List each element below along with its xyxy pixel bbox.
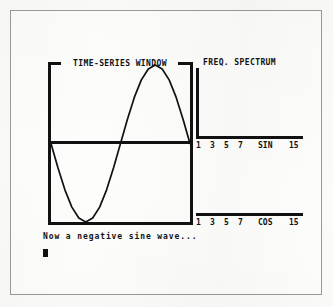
tick-label: 3 bbox=[210, 140, 215, 151]
time-series-border-bottom bbox=[48, 222, 193, 225]
tick-label: 15 bbox=[289, 140, 299, 151]
sin-spectrum-tick-labels: 1357SIN15 bbox=[196, 140, 303, 151]
negative-sine-waveform bbox=[51, 65, 190, 222]
tick-label: 1 bbox=[196, 140, 201, 151]
tick-label: 5 bbox=[224, 217, 229, 228]
tick-label: 1 bbox=[196, 217, 201, 228]
tick-label: 7 bbox=[238, 217, 243, 228]
cos-spectrum-tick-labels: 1357COS15 bbox=[196, 217, 303, 228]
terminal-screen: TIME-SERIES WINDOW FREQ. SPECTRUM 1357SI… bbox=[0, 0, 333, 307]
frequency-spectrum-title: FREQ. SPECTRUM bbox=[203, 58, 276, 67]
time-series-window: TIME-SERIES WINDOW bbox=[48, 62, 193, 225]
tick-label: 5 bbox=[224, 140, 229, 151]
text-cursor bbox=[43, 249, 48, 257]
tick-label: 3 bbox=[210, 217, 215, 228]
sin-spectrum-baseline bbox=[196, 136, 303, 139]
tick-label: 15 bbox=[289, 217, 299, 228]
tick-label: COS bbox=[258, 217, 272, 228]
sin-spectrum-vertical-axis bbox=[196, 68, 199, 139]
cos-spectrum-baseline bbox=[196, 213, 303, 216]
status-message: Now a negative sine wave... bbox=[43, 232, 197, 241]
tick-label: 7 bbox=[238, 140, 243, 151]
tick-label: SIN bbox=[258, 140, 272, 151]
scanned-page: TIME-SERIES WINDOW FREQ. SPECTRUM 1357SI… bbox=[0, 0, 333, 307]
